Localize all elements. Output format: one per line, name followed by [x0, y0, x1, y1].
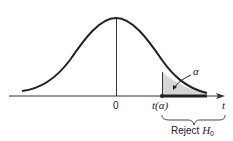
reject-label-prefix: Reject [171, 125, 202, 136]
alpha-label: α [193, 65, 199, 77]
critical-label: t(α) [152, 99, 168, 112]
reject-label: Reject H0 [171, 124, 214, 137]
reject-label-sub: 0 [210, 130, 214, 137]
axis-label: t [222, 99, 226, 111]
origin-label: 0 [113, 100, 119, 111]
t-distribution-diagram: 0 t(α) t α Reject H0 [0, 0, 233, 141]
critical-point [160, 94, 164, 98]
reject-brace [162, 115, 225, 125]
